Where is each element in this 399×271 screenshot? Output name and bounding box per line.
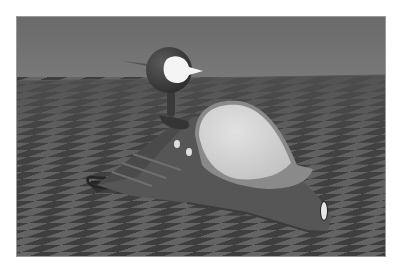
render-image bbox=[16, 16, 386, 257]
scene bbox=[17, 17, 386, 257]
side-light bbox=[174, 140, 180, 148]
side-light bbox=[186, 148, 192, 156]
sky bbox=[17, 17, 386, 83]
